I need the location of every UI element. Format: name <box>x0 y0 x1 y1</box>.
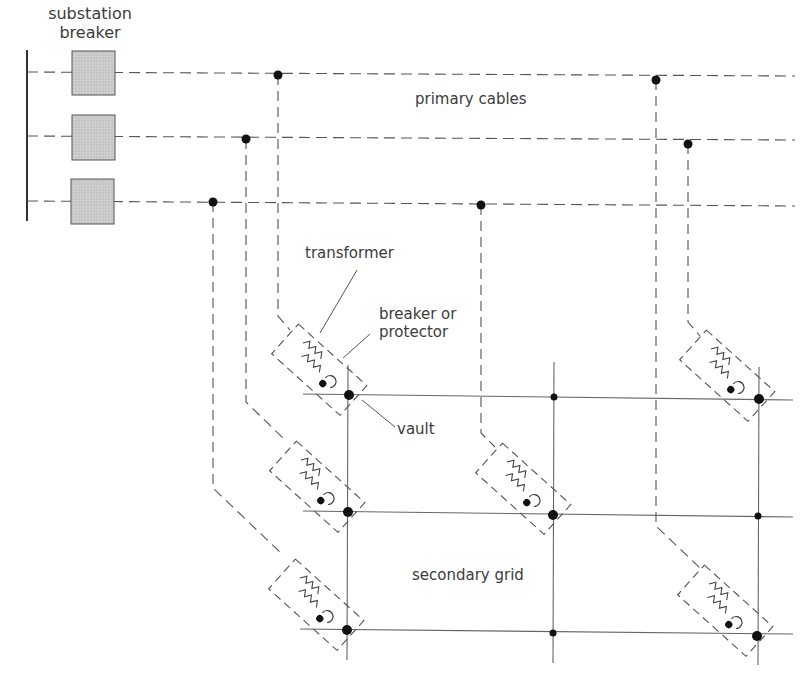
tap-vault-2 <box>246 139 285 440</box>
label-line: protector <box>379 323 456 341</box>
grid-node-vault <box>343 507 353 517</box>
tap-dot <box>652 76 661 85</box>
secondary-grid-label: secondary grid <box>412 566 524 584</box>
label-line: breaker <box>30 23 150 42</box>
breaker-1 <box>72 51 115 95</box>
tap-dot <box>684 140 693 149</box>
vault-3 <box>269 559 364 650</box>
label-line: breaker or <box>379 305 456 323</box>
leader-protector <box>343 334 370 358</box>
tap-dot <box>209 198 218 207</box>
breaker-2 <box>72 115 115 160</box>
tap-dot <box>242 135 251 144</box>
primary-cable-1 <box>27 72 795 76</box>
leader-lines <box>320 270 395 427</box>
tap-vault-5 <box>688 144 700 336</box>
grid-node-vault <box>754 394 764 404</box>
grid-node <box>755 513 762 520</box>
tap-vault-6 <box>656 80 700 568</box>
grid-node-vault <box>548 510 558 520</box>
leader-transformer <box>320 270 357 333</box>
tap-dot <box>274 71 283 80</box>
grid-row-3 <box>300 629 793 634</box>
vault-4 <box>476 443 571 534</box>
grid-node-vault <box>342 625 352 635</box>
primary-cable-3 <box>27 201 795 206</box>
leader-vault <box>362 400 395 427</box>
grid-node-vault <box>344 390 354 400</box>
substation-breakers <box>71 51 115 224</box>
breaker-or-protector-label: breaker or protector <box>379 305 456 341</box>
tap-vault-4 <box>481 205 495 447</box>
tap-vault-3 <box>213 202 283 555</box>
vaults <box>269 324 775 656</box>
substation-breaker-label: substation breaker <box>30 4 150 42</box>
vault-1 <box>272 324 367 415</box>
grid-row-2 <box>303 511 793 517</box>
vault-2 <box>270 441 365 532</box>
transformer-label: transformer <box>305 244 394 262</box>
grid-node-vault <box>752 631 762 641</box>
feeder-taps <box>213 75 700 568</box>
primary-cables <box>27 72 795 206</box>
grid-node <box>550 630 557 637</box>
secondary-grid <box>300 362 793 665</box>
primary-cables-label: primary cables <box>415 90 527 108</box>
tap-dot <box>477 201 486 210</box>
label-line: substation <box>30 4 150 23</box>
breaker-3 <box>71 179 114 224</box>
grid-row-1 <box>303 394 793 400</box>
vault-5 <box>680 330 775 421</box>
grid-node <box>551 394 558 401</box>
vault-label: vault <box>397 420 435 438</box>
primary-cable-2 <box>27 136 795 140</box>
